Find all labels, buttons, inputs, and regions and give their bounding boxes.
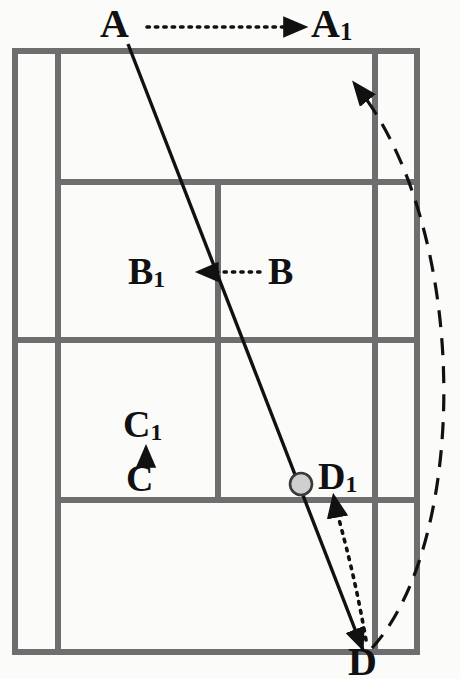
shuttle-marker [290,473,312,495]
point-label-d: D [348,642,377,679]
point-label-b: B [268,252,293,290]
point-label-b1: B1 [128,252,165,290]
point-label-a1: A1 [311,4,352,44]
point-label-c1: C1 [123,405,162,443]
solid-shot-line [128,44,363,650]
dashed-return-curve [358,88,444,648]
court-diagram: A A1 B B1 C C1 D D1 [0,0,460,679]
point-label-d1: D1 [318,457,357,495]
court-svg [0,0,460,679]
point-label-a: A [100,4,129,44]
court-lines [15,51,417,652]
point-label-c: C [126,459,153,497]
